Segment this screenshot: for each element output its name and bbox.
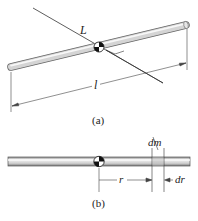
mass-element-label-dm: dm bbox=[148, 137, 161, 148]
length-label-l: l bbox=[94, 79, 97, 91]
center-of-mass-icon bbox=[94, 156, 104, 166]
width-label-dr: dr bbox=[175, 174, 185, 185]
panel-b bbox=[8, 137, 190, 192]
axis-label-L: L bbox=[80, 24, 87, 36]
rod-diagram bbox=[0, 0, 198, 221]
center-of-mass-icon bbox=[94, 42, 104, 52]
panel-a bbox=[11, 8, 189, 112]
length-dimension bbox=[11, 29, 187, 112]
distance-label-r: r bbox=[119, 174, 123, 185]
caption-b: (b) bbox=[92, 198, 105, 209]
caption-a: (a) bbox=[92, 115, 104, 126]
distance-dimension bbox=[99, 168, 173, 192]
